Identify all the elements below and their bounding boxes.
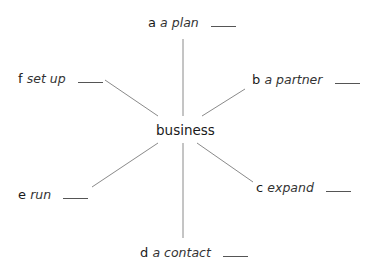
answer-blank[interactable] [326,190,351,192]
item-word: expand [267,180,314,195]
connector-c [197,143,253,182]
node-f: f set up [18,71,103,87]
node-c: c expand [256,180,351,196]
item-word: run [30,187,51,202]
answer-blank[interactable] [223,255,248,257]
center-node: business [156,122,215,138]
node-d: d a contact [140,245,248,261]
item-letter: e [18,187,26,202]
answer-blank[interactable] [335,82,360,84]
item-letter: f [18,71,23,86]
answer-blank[interactable] [63,197,88,199]
answer-blank[interactable] [78,81,103,83]
connector-e [92,143,158,187]
item-letter: c [256,180,263,195]
connector-f [105,80,158,116]
node-b: b a partner [252,72,360,88]
node-e: e run [18,187,88,203]
item-word: set up [27,71,66,86]
item-word: a contact [152,245,210,260]
connector-b [202,89,245,116]
item-letter: d [140,245,148,260]
node-a: a a plan [148,15,236,31]
answer-blank[interactable] [211,25,236,27]
item-word: a partner [264,72,322,87]
item-letter: a [148,15,156,30]
center-label: business [156,122,215,138]
item-word: a plan [160,15,199,30]
item-letter: b [252,72,260,87]
